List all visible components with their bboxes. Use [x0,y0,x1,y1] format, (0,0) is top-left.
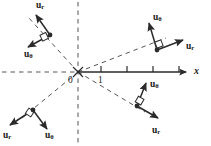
label-ur-lower-left: ur [3,131,11,141]
point-dot-upper-right [155,48,160,53]
vector-ur-upper-left [36,15,50,35]
x-axis-tick-label-1: 1 [98,76,103,86]
vector-utheta-lower-left [33,110,47,129]
origin-label: 0 [68,76,73,86]
label-ur-upper-left: ur [36,1,44,11]
point-dot-lower-right [135,104,140,109]
label-utheta-lower-right: uθ [150,80,159,90]
label-ur-upper-right: ur [186,42,194,52]
label-ur-lower-right: ur [152,126,160,136]
vector-pair-upper-right [149,23,183,52]
figure-canvas [0,0,211,146]
vector-ur-lower-right [137,106,158,118]
vector-pair-upper-left [28,15,52,47]
dashed-ray-upper-left [28,17,78,72]
dashed-guides [2,2,166,144]
polar-unit-vector-figure: ur uθ uθ ur uθ ur ur uθ x 0 1 [0,0,211,146]
label-utheta-upper-right: uθ [153,13,162,23]
label-utheta-lower-left: uθ [45,131,54,141]
x-axis-label: x [194,66,199,76]
x-axis [78,66,186,72]
point-dot-lower-left [31,108,36,113]
vector-pair-lower-left [10,108,47,129]
label-utheta-upper-left: uθ [24,50,33,60]
point-dot-upper-left [48,33,53,38]
